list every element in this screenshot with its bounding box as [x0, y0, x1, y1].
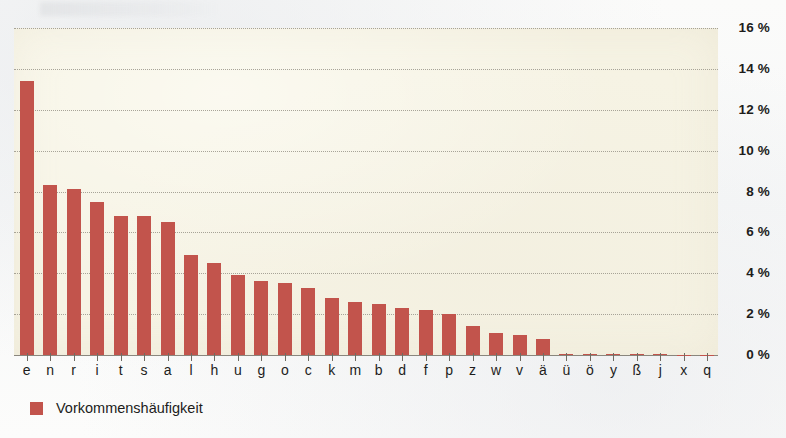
x-axis-label-u: u: [226, 362, 250, 378]
bar-s: [137, 216, 151, 355]
bar-h: [207, 263, 221, 355]
x-axis-label-g: g: [249, 362, 273, 378]
x-axis-ticks-group: [14, 353, 718, 362]
x-axis-tick-i: [97, 353, 98, 361]
x-axis-label-l: l: [179, 362, 203, 378]
x-axis-tick-ß: [637, 353, 638, 361]
x-axis-label-b: b: [367, 362, 391, 378]
y-axis-label-2pct: 2 %: [724, 306, 770, 321]
bar-i: [90, 202, 104, 355]
x-axis-label-z: z: [461, 362, 485, 378]
y-axis-label-0pct: 0 %: [724, 347, 770, 362]
x-axis-tick-e: [27, 353, 28, 361]
x-axis-tick-w: [496, 353, 497, 361]
x-axis-tick-ü: [566, 353, 567, 361]
bars-group: [14, 28, 718, 355]
x-axis-tick-u: [238, 353, 239, 361]
y-axis-label-4pct: 4 %: [724, 265, 770, 280]
x-axis-tick-l: [191, 353, 192, 361]
x-axis-tick-t: [121, 353, 122, 361]
x-axis-label-d: d: [390, 362, 414, 378]
x-axis-tick-x: [684, 353, 685, 361]
x-axis-label-f: f: [414, 362, 438, 378]
y-axis-label-14pct: 14 %: [724, 61, 770, 76]
y-axis-label-6pct: 6 %: [724, 224, 770, 239]
x-axis-tick-c: [308, 353, 309, 361]
x-axis-label-ö: ö: [578, 362, 602, 378]
bar-n: [43, 185, 57, 355]
x-axis-label-ä: ä: [531, 362, 555, 378]
x-axis-label-q: q: [695, 362, 719, 378]
x-axis-tick-s: [144, 353, 145, 361]
x-axis-label-x: x: [672, 362, 696, 378]
x-axis-label-m: m: [343, 362, 367, 378]
bar-f: [419, 310, 433, 355]
bar-v: [513, 335, 527, 355]
x-axis-label-s: s: [132, 362, 156, 378]
bar-e: [20, 81, 34, 355]
letter-frequency-bar-chart: 16 %14 %12 %10 %8 %6 %4 %2 %0 % enritsal…: [0, 0, 786, 438]
x-axis-label-ü: ü: [554, 362, 578, 378]
x-axis-label-t: t: [109, 362, 133, 378]
x-axis-tick-d: [402, 353, 403, 361]
x-axis-tick-ö: [590, 353, 591, 361]
x-axis-label-i: i: [85, 362, 109, 378]
x-axis-label-e: e: [15, 362, 39, 378]
y-axis-label-12pct: 12 %: [724, 102, 770, 117]
x-axis-tick-o: [285, 353, 286, 361]
x-axis-tick-ä: [543, 353, 544, 361]
x-axis-tick-b: [379, 353, 380, 361]
chart-legend: Vorkommenshäufigkeit: [30, 400, 203, 416]
x-axis-label-o: o: [273, 362, 297, 378]
x-axis-tick-a: [168, 353, 169, 361]
x-axis-tick-f: [426, 353, 427, 361]
x-axis-tick-r: [74, 353, 75, 361]
bar-w: [489, 333, 503, 355]
x-axis-label-p: p: [437, 362, 461, 378]
bar-b: [372, 304, 386, 355]
bar-g: [254, 281, 268, 355]
legend-color-swatch: [30, 402, 43, 415]
x-axis-label-h: h: [202, 362, 226, 378]
bar-a: [161, 222, 175, 355]
bar-m: [348, 302, 362, 355]
x-axis-label-n: n: [38, 362, 62, 378]
x-axis-label-v: v: [508, 362, 532, 378]
x-axis-label-w: w: [484, 362, 508, 378]
bar-d: [395, 308, 409, 355]
y-axis-label-8pct: 8 %: [724, 184, 770, 199]
bar-o: [278, 283, 292, 355]
x-axis-tick-j: [660, 353, 661, 361]
x-axis-label-j: j: [648, 362, 672, 378]
x-axis-label-y: y: [601, 362, 625, 378]
x-axis-tick-p: [449, 353, 450, 361]
bar-p: [442, 314, 456, 355]
x-axis-label-a: a: [156, 362, 180, 378]
x-axis-tick-q: [707, 353, 708, 361]
bar-l: [184, 255, 198, 355]
x-axis-tick-y: [613, 353, 614, 361]
bar-u: [231, 275, 245, 355]
y-axis-label-16pct: 16 %: [724, 20, 770, 35]
y-axis-label-10pct: 10 %: [724, 143, 770, 158]
x-axis-tick-n: [50, 353, 51, 361]
bar-z: [466, 326, 480, 355]
legend-label: Vorkommenshäufigkeit: [56, 400, 203, 416]
x-axis-label-c: c: [296, 362, 320, 378]
x-axis-labels-group: enritsalhugockmbdfpzwväüöyßjxq: [14, 362, 718, 384]
bar-k: [325, 298, 339, 355]
x-axis-tick-k: [332, 353, 333, 361]
x-axis-tick-m: [355, 353, 356, 361]
y-axis-labels-group: 16 %14 %12 %10 %8 %6 %4 %2 %0 %: [724, 0, 784, 438]
x-axis-label-ß: ß: [625, 362, 649, 378]
x-axis-label-k: k: [320, 362, 344, 378]
x-axis-tick-v: [520, 353, 521, 361]
x-axis-tick-h: [214, 353, 215, 361]
x-axis-tick-z: [473, 353, 474, 361]
bar-t: [114, 216, 128, 355]
x-axis-tick-g: [261, 353, 262, 361]
x-axis-label-r: r: [62, 362, 86, 378]
bar-c: [301, 288, 315, 355]
bar-r: [67, 189, 81, 355]
